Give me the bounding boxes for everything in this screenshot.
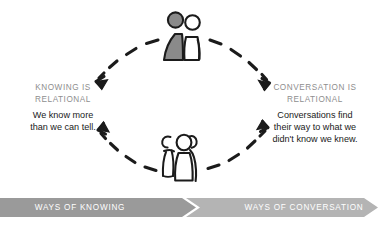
banner-ways-of-knowing: Ways of Knowing bbox=[0, 198, 196, 217]
left-heading: KNOWING IS RELATIONAL bbox=[4, 82, 122, 105]
top-people-group bbox=[164, 12, 200, 60]
right-text-block: CONVERSATION IS RELATIONAL Conversations… bbox=[254, 82, 376, 145]
banner-ways-of-conversation: Ways of Conversation bbox=[186, 198, 378, 217]
banner-ways-of-conversation-label: Ways of Conversation bbox=[244, 203, 363, 212]
right-heading: CONVERSATION IS RELATIONAL bbox=[254, 82, 376, 105]
left-text-block: KNOWING IS RELATIONAL We know more than … bbox=[4, 82, 122, 134]
left-body-text: We know more than we can tell. bbox=[4, 110, 122, 134]
right-body-text: Conversations find their way to what we … bbox=[254, 110, 376, 145]
banner-ways-of-knowing-label: Ways of Knowing bbox=[35, 203, 125, 212]
bottom-people-group bbox=[162, 135, 196, 181]
banner-row: Ways of Knowing Ways of Conversation bbox=[0, 198, 378, 217]
diagram-canvas: KNOWING IS RELATIONAL We know more than … bbox=[0, 0, 378, 227]
